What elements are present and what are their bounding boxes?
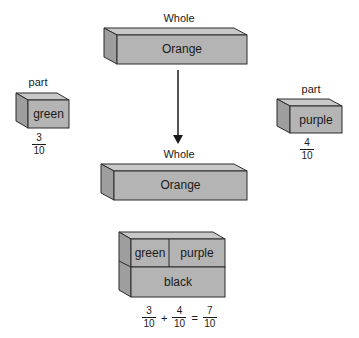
- stacked-black-label: black: [131, 275, 225, 289]
- green-part-label: green: [28, 107, 69, 121]
- fraction-numerator: 7: [203, 306, 217, 316]
- equation-term-1: 3 10: [142, 306, 156, 329]
- plus-sign: +: [161, 312, 167, 324]
- fraction-denominator: 10: [203, 319, 217, 329]
- equals-sign: =: [191, 312, 197, 324]
- right-part-title: part: [291, 83, 331, 95]
- left-part-fraction: 3 10: [32, 133, 46, 156]
- fraction-denominator: 10: [142, 319, 156, 329]
- stacked-green-label: green: [131, 246, 169, 260]
- fraction-denominator: 10: [172, 319, 186, 329]
- purple-part-label: purple: [290, 113, 342, 127]
- bottom-orange-label: Orange: [114, 178, 247, 192]
- equation-term-3: 7 10: [203, 306, 217, 329]
- bottom-whole-title: Whole: [154, 148, 204, 160]
- fraction-denominator: 10: [32, 146, 46, 156]
- stacked-purple-label: purple: [169, 246, 225, 260]
- top-orange-label: Orange: [117, 42, 247, 56]
- fraction-numerator: 3: [142, 306, 156, 316]
- top-whole-title: Whole: [154, 12, 204, 24]
- fraction-denominator: 10: [300, 151, 314, 161]
- equation-term-2: 4 10: [172, 306, 186, 329]
- left-part-title: part: [18, 76, 58, 88]
- fraction-numerator: 4: [300, 138, 314, 148]
- down-arrow-icon: [173, 70, 183, 144]
- fraction-equation: 3 10 + 4 10 = 7 10: [142, 306, 217, 329]
- fraction-numerator: 4: [172, 306, 186, 316]
- right-part-fraction: 4 10: [300, 138, 314, 161]
- fraction-numerator: 3: [32, 133, 46, 143]
